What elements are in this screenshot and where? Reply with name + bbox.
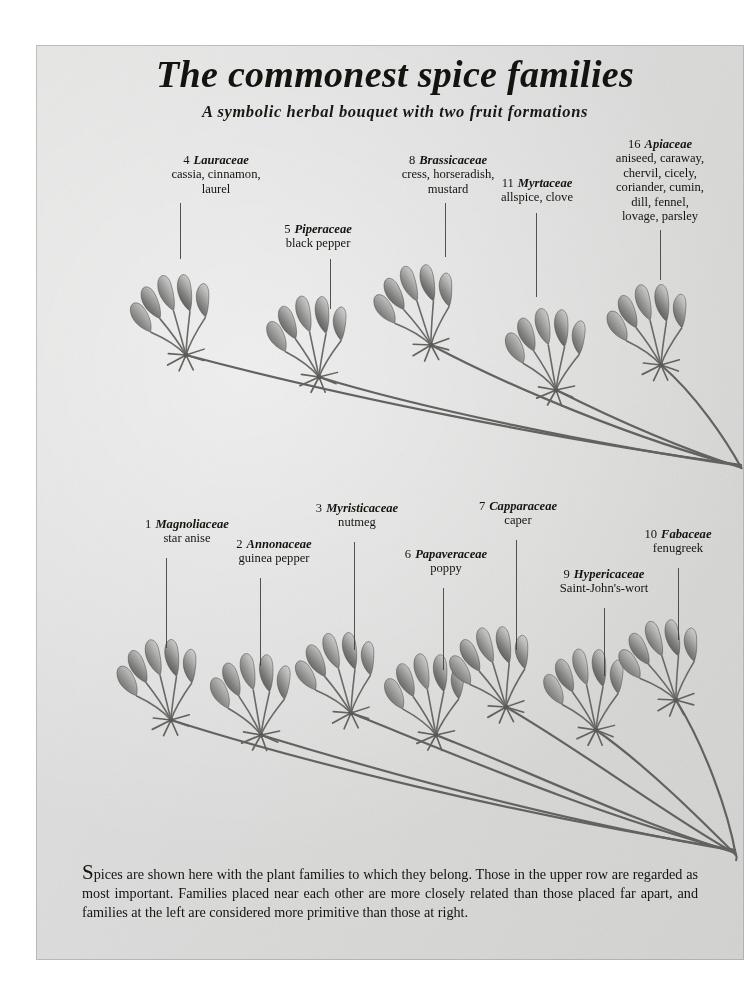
- title-block: The commonest spice families A symbolic …: [36, 55, 744, 122]
- label-number: 5: [284, 222, 290, 236]
- label-common-1: caper: [438, 513, 598, 527]
- leader-line-myristicaceae: [354, 542, 355, 650]
- caption-dropcap: S: [82, 860, 94, 884]
- label-family: Myrtaceae: [518, 176, 573, 190]
- label-common-5: lovage, parsley: [580, 209, 740, 223]
- label-number: 1: [145, 517, 151, 531]
- label-common-4: dill, fennel,: [580, 195, 740, 209]
- label-family: Capparaceae: [489, 499, 557, 513]
- label-common-1: cassia, cinnamon,: [128, 167, 304, 181]
- leader-line-brassicaceae: [445, 203, 446, 257]
- label-fabaceae: 10Fabaceae fenugreek: [612, 527, 744, 556]
- label-common-2: chervil, cicely,: [580, 166, 740, 180]
- leader-line-piperaceae: [330, 259, 331, 309]
- leader-line-hypericaceae: [604, 608, 605, 676]
- label-number: 16: [628, 137, 641, 151]
- label-common-1: poppy: [370, 561, 522, 575]
- label-common-1: aniseed, caraway,: [580, 151, 740, 165]
- label-family: Apiaceae: [645, 137, 693, 151]
- page-title: The commonest spice families: [36, 55, 744, 95]
- leader-line-apiaceae: [660, 230, 661, 280]
- label-number: 10: [645, 527, 658, 541]
- label-common-1: black pepper: [248, 236, 388, 250]
- upper-row-clusters: [124, 256, 698, 410]
- caption-body: pices are shown here with the plant fami…: [82, 866, 698, 920]
- label-number: 3: [316, 501, 322, 515]
- upper-row-stems: [186, 345, 742, 469]
- label-family: Lauraceae: [194, 153, 249, 167]
- label-common-1: guinea pepper: [196, 551, 352, 565]
- label-myristicaceae: 3Myristicaceae nutmeg: [274, 501, 440, 530]
- label-apiaceae: 16Apiaceae aniseed, caraway, chervil, ci…: [580, 137, 740, 224]
- label-common-1: fenugreek: [612, 541, 744, 555]
- label-capparaceae: 7Capparaceae caper: [438, 499, 598, 528]
- label-number: 11: [502, 176, 514, 190]
- leader-line-papaveraceae: [443, 588, 444, 670]
- lower-row-clusters: [112, 611, 714, 756]
- label-annonaceae: 2Annonaceae guinea pepper: [196, 537, 352, 566]
- leader-line-fabaceae: [678, 568, 679, 640]
- label-family: Papaveraceae: [415, 547, 487, 561]
- label-number: 7: [479, 499, 485, 513]
- label-common-1: nutmeg: [274, 515, 440, 529]
- label-family: Piperaceae: [294, 222, 351, 236]
- label-common-3: coriander, cumin,: [580, 180, 740, 194]
- label-papaveraceae: 6Papaveraceae poppy: [370, 547, 522, 576]
- leader-line-annonaceae: [260, 578, 261, 666]
- label-family: Hypericaceae: [574, 567, 645, 581]
- label-common-1: Saint-John's-wort: [510, 581, 698, 595]
- label-number: 2: [236, 537, 242, 551]
- label-number: 6: [405, 547, 411, 561]
- label-common-2: laurel: [128, 182, 304, 196]
- label-piperaceae: 5Piperaceae black pepper: [248, 222, 388, 251]
- leader-line-myrtaceae: [536, 213, 537, 297]
- illustration-page: The commonest spice families A symbolic …: [36, 45, 744, 960]
- label-family: Brassicaceae: [419, 153, 487, 167]
- label-number: 9: [564, 567, 570, 581]
- label-family: Myristicaceae: [326, 501, 398, 515]
- label-family: Fabaceae: [661, 527, 711, 541]
- label-number: 8: [409, 153, 415, 167]
- leader-line-magnoliaceae: [166, 558, 167, 648]
- label-family: Magnoliaceae: [155, 517, 228, 531]
- label-lauraceae: 4Lauraceae cassia, cinnamon, laurel: [128, 153, 304, 196]
- label-hypericaceae: 9Hypericaceae Saint-John's-wort: [510, 567, 698, 596]
- caption: Spices are shown here with the plant fam…: [82, 863, 698, 922]
- label-family: Annonaceae: [247, 537, 312, 551]
- leader-line-lauraceae: [180, 203, 181, 259]
- page-subtitle: A symbolic herbal bouquet with two fruit…: [36, 102, 744, 122]
- label-number: 4: [183, 153, 189, 167]
